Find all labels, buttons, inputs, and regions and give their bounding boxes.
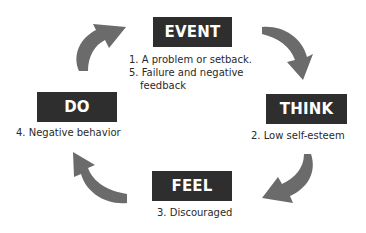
event-line-1: 1. A problem or setback. (129, 53, 252, 66)
event-box: EVENT (153, 17, 232, 47)
do-box: DO (37, 92, 117, 122)
do-line-1: 4. Negative behavior (16, 127, 121, 138)
event-line-2: 5. Failure and negative (129, 66, 252, 79)
feel-description: 3. Discouraged (157, 206, 232, 219)
curved-arrow-icon (76, 24, 126, 71)
curved-arrow-icon (73, 152, 127, 203)
event-title: EVENT (165, 23, 221, 41)
feel-title: FEEL (171, 177, 212, 195)
feel-box: FEEL (152, 171, 232, 201)
think-box: THINK (266, 94, 347, 124)
curved-arrow-icon (262, 154, 313, 203)
do-title: DO (64, 98, 90, 116)
curved-arrow-icon (262, 27, 313, 80)
think-description: 2. Low self-esteem (251, 129, 345, 142)
cycle-diagram: EVENT 1. A problem or setback. 5. Failur… (0, 0, 366, 233)
event-line-3: feedback (129, 79, 252, 92)
event-description: 1. A problem or setback. 5. Failure and … (129, 53, 252, 92)
feel-line-1: 3. Discouraged (157, 207, 232, 218)
think-line-1: 2. Low self-esteem (251, 130, 345, 141)
think-title: THINK (280, 100, 334, 118)
do-description: 4. Negative behavior (16, 126, 121, 139)
